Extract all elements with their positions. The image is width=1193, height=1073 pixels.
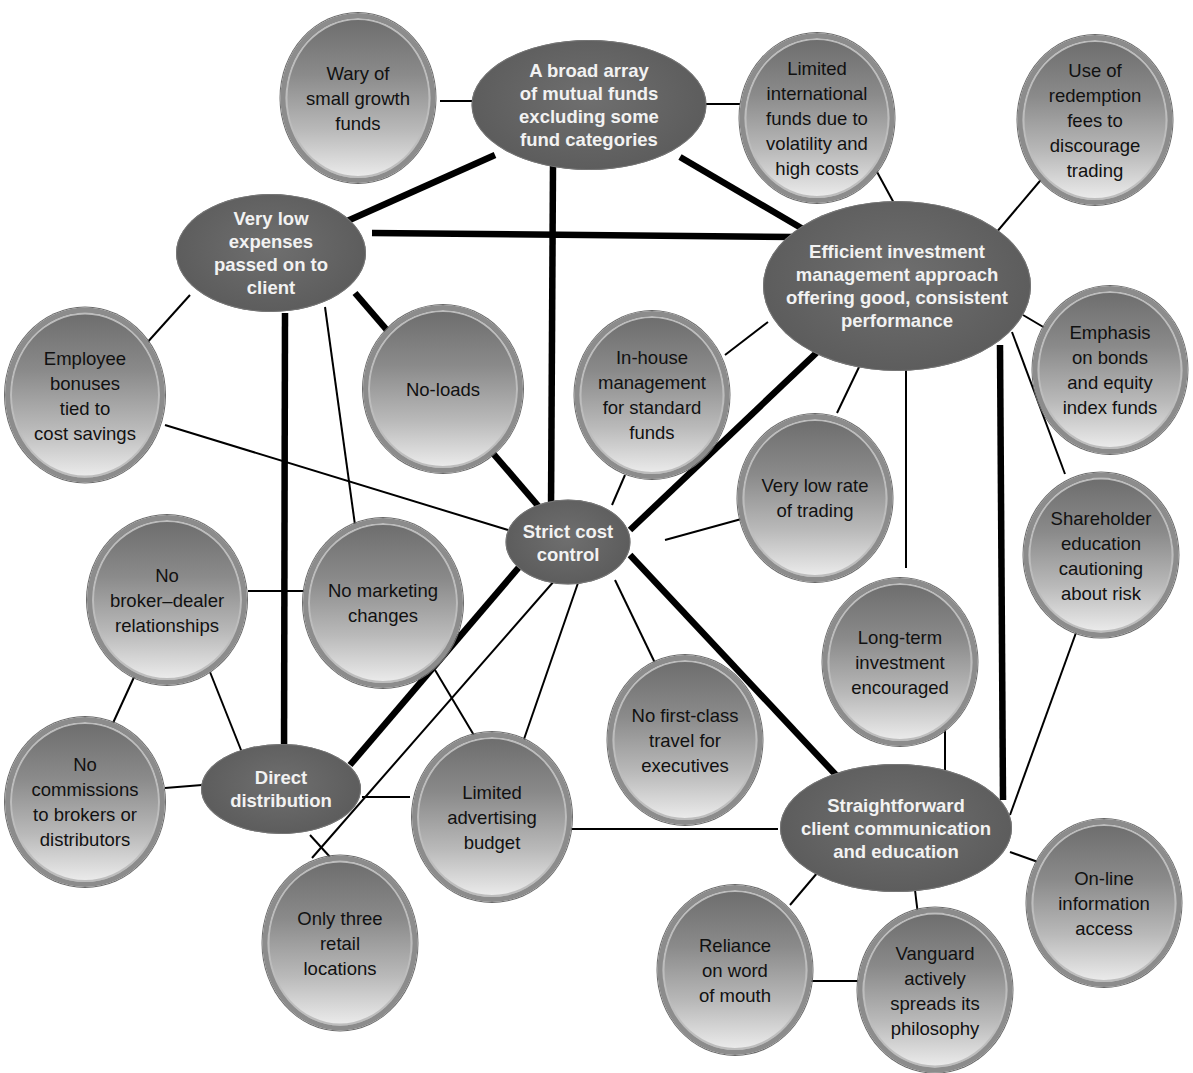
edge-strict-cost-to-no-first-class [615,580,655,663]
leaf-label: Vanguard actively spreads its philosophy [886,940,983,1040]
edge-no-marketing-to-limited-advertising [435,670,475,737]
edge-no-commissions-to-direct-distribution [165,785,202,788]
edge-efficient-to-in-house [725,322,768,355]
leaf-label: No marketing changes [324,578,442,628]
leaf-label: In-house management for standard funds [594,345,710,445]
hub-label: A broad array of mutual funds excluding … [515,59,663,151]
leaf-label: No-loads [402,377,484,402]
edge-shareholder-to-straightforward [1010,630,1077,815]
hub-efficient-investment-management: Efficient investment management approach… [763,201,1031,371]
leaf-limited-advertising-budget: Limited advertising budget [412,732,572,902]
leaf-vanguard-spreads-philosophy: Vanguard actively spreads its philosophy [858,908,1013,1073]
edge-very-low-to-direct-distribution [284,313,285,760]
leaf-label: Reliance on word of mouth [695,933,775,1008]
leaf-label: No broker–dealer relationships [106,563,228,638]
edge-very-low-to-no-marketing [325,307,355,525]
edge-no-broker-to-direct-distribution [210,672,243,755]
hub-label: Direct distribution [226,766,336,812]
leaf-no-loads: No-loads [363,305,523,473]
leaf-label: Long-term investment encouraged [847,625,953,700]
leaf-employee-bonuses: Employee bonuses tied to cost savings [5,308,165,483]
leaf-online-information-access: On-line information access [1027,819,1182,987]
leaf-label: Use of redemption fees to discourage tra… [1045,58,1146,183]
hub-label: Straightforward client communication and… [797,794,995,863]
hub-label: Very low expenses passed on to client [210,207,332,299]
edge-very-low-to-employee-bonuses [145,295,190,345]
edge-in-house-to-strict-cost [612,475,625,505]
leaf-shareholder-education: Shareholder education cautioning about r… [1024,473,1179,638]
leaf-label: Wary of small growth funds [302,61,414,136]
leaf-emphasis-bonds-index-funds: Emphasis on bonds and equity index funds [1033,286,1188,454]
leaf-label: No first-class travel for executives [628,703,743,778]
edge-no-broker-to-no-commissions [113,675,135,723]
hub-very-low-expenses: Very low expenses passed on to client [176,194,366,312]
leaf-label: On-line information access [1054,866,1154,941]
leaf-reliance-on-word-of-mouth: Reliance on word of mouth [658,885,813,1055]
edge-direct-distribution-to-only-three [310,835,330,857]
leaf-label: Limited advertising budget [443,780,540,855]
edge-very-low-to-efficient [372,233,795,237]
hub-direct-distribution: Direct distribution [201,744,361,834]
leaf-label: Employee bonuses tied to cost savings [30,345,140,445]
leaf-label: No commissions to brokers or distributor… [28,752,143,852]
leaf-only-three-retail-locations: Only three retail locations [263,856,418,1031]
leaf-long-term-investment: Long-term investment encouraged [823,578,978,746]
leaf-no-commissions: No commissions to brokers or distributor… [5,717,165,887]
leaf-label: Very low rate of trading [758,473,873,523]
edge-very-low-trading-to-strict-cost [665,518,745,540]
hub-straightforward-communication: Straightforward client communication and… [780,764,1012,892]
edge-straightforward-to-online [1010,852,1038,862]
hub-label: Efficient investment management approach… [782,240,1012,332]
hub-label: Strict cost control [519,519,617,565]
edge-efficient-to-straightforward [1000,345,1003,800]
edge-limited-intl-to-efficient [876,170,895,205]
leaf-no-marketing-changes: No marketing changes [303,518,463,688]
leaf-no-first-class-travel: No first-class travel for executives [608,655,763,825]
leaf-label: Only three retail locations [293,906,386,981]
edge-efficient-to-very-low-trading [837,365,860,413]
leaf-very-low-rate-of-trading: Very low rate of trading [738,414,893,582]
hub-broad-array-of-funds: A broad array of mutual funds excluding … [472,40,707,170]
leaf-label: Emphasis on bonds and equity index funds [1059,320,1162,420]
leaf-redemption-fees: Use of redemption fees to discourage tra… [1018,35,1173,205]
leaf-wary-of-small-growth-funds: Wary of small growth funds [281,13,436,183]
hub-strict-cost-control: Strict cost control [506,500,631,585]
leaf-no-broker-dealer: No broker–dealer relationships [87,515,247,685]
edge-efficient-to-emphasis [1023,315,1045,328]
leaf-label: Limited international funds due to volat… [762,56,872,181]
edge-broad-array-to-strict-cost [551,165,553,510]
leaf-in-house-management: In-house management for standard funds [575,311,730,479]
leaf-label: Shareholder education cautioning about r… [1047,505,1156,605]
leaf-limited-international-funds: Limited international funds due to volat… [740,33,895,203]
edge-straightforward-to-reliance [790,872,818,905]
